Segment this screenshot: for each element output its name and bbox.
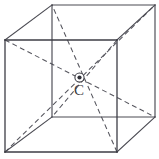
cube-drawing-canvas: C [0, 0, 159, 159]
center-point-label: C [74, 82, 84, 98]
connector-bottom-left-edge [5, 117, 52, 152]
cube-diagram: C [0, 0, 159, 159]
back-face-group [52, 5, 155, 117]
center-marker-group [75, 73, 84, 82]
connector-top-right-edge [117, 5, 155, 40]
connector-top-left-edge [5, 5, 52, 40]
front-face-group [5, 40, 117, 152]
connector-bottom-right-edge [117, 117, 155, 152]
center-dot-icon [77, 75, 81, 79]
